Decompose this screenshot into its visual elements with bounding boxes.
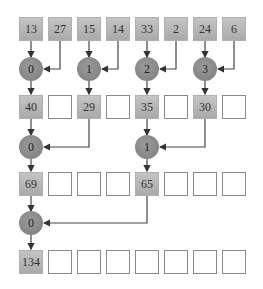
cell-l0-7: 6 <box>222 17 246 41</box>
cell-l2-5 <box>164 172 188 196</box>
cell-l2-1 <box>48 172 72 196</box>
node-l1-0: 0 <box>19 57 43 81</box>
cell-l2-2 <box>77 172 101 196</box>
cell-l2-7 <box>222 172 246 196</box>
node-l1-2: 2 <box>135 57 159 81</box>
node-l1-3: 3 <box>193 57 217 81</box>
node-l3-0: 0 <box>19 211 43 235</box>
cell-l1-2: 29 <box>77 95 101 119</box>
cell-l1-5 <box>164 95 188 119</box>
cell-l3-1 <box>48 250 72 274</box>
cell-l3-3 <box>106 250 130 274</box>
cell-l0-2: 15 <box>77 17 101 41</box>
cell-l1-0: 40 <box>19 95 43 119</box>
cell-l1-7 <box>222 95 246 119</box>
cell-l0-3: 14 <box>106 17 130 41</box>
cell-l0-0: 13 <box>19 17 43 41</box>
cell-l0-5: 2 <box>164 17 188 41</box>
cell-l2-6 <box>193 172 217 196</box>
cell-l1-6: 30 <box>193 95 217 119</box>
cell-l2-4: 65 <box>135 172 159 196</box>
cell-l0-1: 27 <box>48 17 72 41</box>
cell-l2-3 <box>106 172 130 196</box>
cell-l3-5 <box>164 250 188 274</box>
node-l1-1: 1 <box>77 57 101 81</box>
cell-l3-2 <box>77 250 101 274</box>
reduction-diagram: 13 27 15 14 33 2 24 6 0 1 2 3 40 29 35 3… <box>0 0 263 289</box>
cell-l1-4: 35 <box>135 95 159 119</box>
cell-l2-0: 69 <box>19 172 43 196</box>
cell-l0-4: 33 <box>135 17 159 41</box>
node-l2-0: 0 <box>19 135 43 159</box>
cell-l3-7 <box>222 250 246 274</box>
node-l2-1: 1 <box>135 135 159 159</box>
cell-l3-6 <box>193 250 217 274</box>
cell-l3-4 <box>135 250 159 274</box>
cell-l1-1 <box>48 95 72 119</box>
cell-l0-6: 24 <box>193 17 217 41</box>
cell-l3-0: 134 <box>19 250 43 274</box>
cell-l1-3 <box>106 95 130 119</box>
